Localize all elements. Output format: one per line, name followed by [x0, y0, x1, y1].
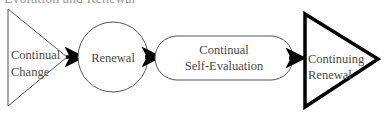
node-continuing-renewal: Continuing Renewal — [305, 14, 378, 107]
node-label-line1: Continual — [11, 48, 61, 62]
flow-diagram: Evolution and Renewal Continual Change R… — [0, 0, 387, 113]
node-label-line1: Continual — [199, 43, 249, 57]
node-continual-self-evaluation: Continual Self-Evaluation — [155, 36, 293, 80]
node-label: Renewal — [91, 51, 135, 65]
node-label-line1: Continuing — [308, 52, 365, 66]
node-label-line2: Self-Evaluation — [185, 59, 264, 73]
node-continual-change: Continual Change — [8, 9, 67, 106]
node-renewal: Renewal — [78, 22, 148, 92]
node-label-line2: Renewal — [308, 68, 352, 82]
cropped-title: Evolution and Renewal — [4, 0, 136, 6]
node-label-line2: Change — [11, 65, 50, 79]
title-text: Evolution and Renewal — [4, 0, 136, 6]
